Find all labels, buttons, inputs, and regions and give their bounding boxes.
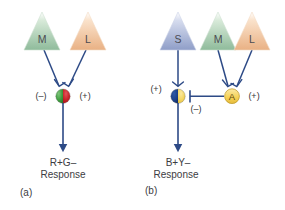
sign-label-plus-amacrine: (+) [248,91,259,101]
cone-s-label: S [174,33,181,45]
amacrine-cell-label: A [229,91,236,102]
panel-a-label: (a) [20,187,32,198]
sign-label-minus-inhibitory: (–) [191,104,202,114]
ganglion-cell-blue-yellow [171,89,185,103]
panel-b: S M L A (+) [145,12,270,196]
sign-label-plus-ganglion: (+) [150,84,161,94]
response-line-1: B+Y– [166,157,191,168]
color-opponency-diagram: M L (–) (+) R+G– Response (a) [0,0,285,210]
cone-m-label: M [214,33,223,45]
cone-l-label: L [85,33,91,45]
response-line-2: Response [40,169,85,180]
response-line-2: Response [153,169,198,180]
amacrine-cell-a: A [225,89,240,104]
ganglion-cell-red-green [56,89,70,103]
synapse-m-to-amacrine [218,50,234,87]
panel-a: M L (–) (+) R+G– Response (a) [20,12,106,198]
synapse-m-to-ganglion [44,50,65,86]
cone-m-label: M [38,33,47,45]
inhibitory-synapse-amacrine-to-ganglion [190,90,224,102]
response-line-1: R+G– [50,157,77,168]
synapse-l-to-amacrine [231,50,252,87]
synapse-s-to-ganglion [173,50,184,86]
cone-l: L [70,12,106,50]
sign-label-plus: (+) [79,91,90,101]
cone-m: M [24,12,60,50]
panel-b-label: (b) [145,185,157,196]
synapse-l-to-ganglion [63,50,86,86]
cone-l-label: L [249,33,255,45]
sign-label-minus: (–) [36,91,47,101]
cone-l: L [234,12,270,50]
cone-s: S [160,12,196,50]
cone-m: M [200,12,236,50]
